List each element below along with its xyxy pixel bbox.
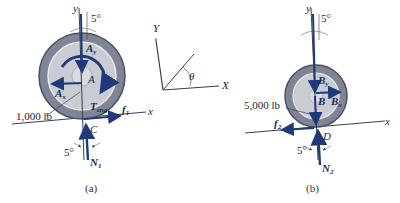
force-arrow-weight-b (315, 96, 316, 124)
axis-label-X: X (221, 79, 230, 91)
global-axes-diagram: Y X θ (153, 22, 230, 91)
label-f2: f2 (274, 117, 282, 131)
angle-theta: θ (189, 70, 195, 82)
force-arrow-ay (81, 14, 82, 72)
angle-bottom-a: 5° (64, 146, 74, 158)
free-body-diagram-figure: x y 5° Ay Ax A Teng 1,000 lb f (0, 0, 400, 203)
label-n2: N2 (321, 162, 334, 176)
label-n1: N1 (89, 156, 101, 170)
panel-a: x y 5° Ay Ax A Teng 1,000 lb f (12, 2, 153, 195)
caption-b: (b) (306, 182, 319, 195)
force-arrow-bx (316, 92, 340, 93)
force-arrow-n1 (86, 125, 88, 160)
x-axis-label-a: x (147, 105, 153, 117)
label-c: C (90, 123, 98, 135)
caption-a: (a) (85, 182, 98, 195)
x-axis-label-b: x (384, 115, 390, 127)
label-d: D (322, 130, 331, 142)
weight-label-b: 5,000 lb (244, 99, 281, 111)
angle-top-b: 5° (321, 12, 331, 24)
weight-label-a: 1,000 lb (16, 110, 53, 122)
angle-bottom-b: 5° (297, 144, 307, 156)
force-arrow-f2 (282, 128, 314, 130)
axis-label-Y: Y (153, 22, 161, 34)
panel-b: x y 5° By Bx B 5,000 lb f2 D N2 (244, 2, 390, 195)
y-axis-label-a: y (72, 2, 78, 14)
force-arrow-ax (52, 83, 82, 84)
label-f1: f1 (122, 103, 129, 117)
angle-top-a: 5° (91, 12, 101, 24)
y-axis-label-b: y (305, 2, 311, 14)
label-a-center: A (87, 73, 95, 85)
label-b-center: B (317, 95, 325, 107)
